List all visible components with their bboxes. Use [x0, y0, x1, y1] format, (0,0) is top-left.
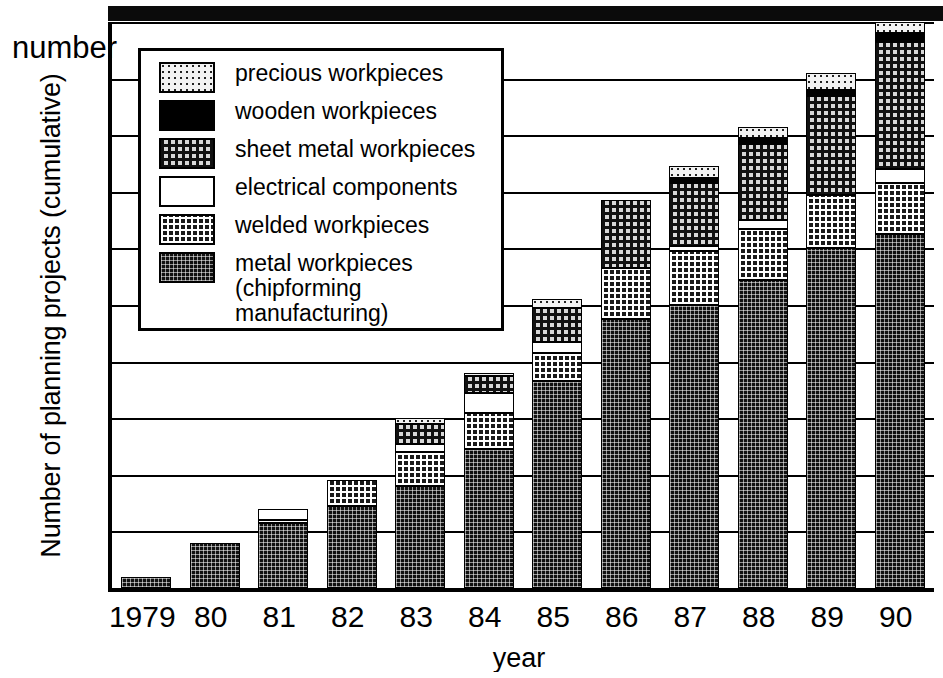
bar-segment-electrical [738, 220, 788, 228]
bar-segment-precious [669, 166, 719, 177]
scan-artifact-strip [108, 6, 943, 21]
bar-segment-welded [327, 480, 377, 505]
bar-segment-metal [190, 543, 240, 588]
legend-swatch-precious [159, 62, 215, 93]
bar-86 [601, 22, 651, 588]
bar-segment-wooden [806, 90, 856, 96]
bar-segment-welded [738, 229, 788, 280]
x-axis-ticks: 19798081828384858687888990 [108, 600, 930, 640]
legend-item-label: precious workpieces [235, 61, 443, 86]
bar-segment-sheet [464, 376, 514, 393]
bar-87 [669, 22, 719, 588]
bar-segment-precious [532, 299, 582, 307]
legend-item-label: wooden workpieces [235, 99, 437, 124]
bar-segment-welded [395, 452, 445, 486]
bar-segment-sheet [875, 42, 925, 169]
bar-segment-precious [464, 373, 514, 376]
bar-segment-welded [258, 520, 308, 523]
bar-segment-sheet [738, 144, 788, 220]
bar-segment-sheet [669, 183, 719, 245]
legend-item-welded: welded workpieces [141, 213, 501, 251]
legend-item-label: sheet metal workpieces [235, 137, 475, 162]
x-axis-title: year [108, 643, 930, 674]
legend-item-label: electrical components [235, 175, 457, 200]
bar-segment-precious [875, 22, 925, 33]
bar-segment-sheet [806, 96, 856, 195]
legend-item-electrical: electrical components [141, 175, 501, 213]
bar-segment-metal [875, 234, 925, 588]
bar-90 [875, 22, 925, 588]
legend-item-precious: precious workpieces [141, 61, 501, 99]
bar-segment-sheet [395, 424, 445, 444]
legend-swatch-sheet-metal [159, 138, 215, 169]
legend-rows: precious workpieceswooden workpiecesshee… [141, 61, 501, 313]
bar-segment-wooden [738, 138, 788, 144]
bar-segment-electrical [669, 246, 719, 252]
bar-segment-precious [806, 73, 856, 90]
bar-segment-metal [395, 486, 445, 588]
bar-segment-welded [601, 268, 651, 319]
bar-segment-metal [327, 506, 377, 588]
bar-segment-metal [532, 381, 582, 588]
legend-item-wooden: wooden workpieces [141, 99, 501, 137]
bar-segment-sheet [532, 308, 582, 342]
bar-segment-precious [395, 418, 445, 424]
bar-segment-electrical [464, 393, 514, 413]
legend-swatch-wooden [159, 100, 215, 131]
legend-item-sheet: sheet metal workpieces [141, 137, 501, 175]
bar-segment-welded [875, 183, 925, 234]
bar-segment-sheet [601, 200, 651, 268]
legend-item-label: welded workpieces [235, 213, 429, 238]
legend-swatch-metal [159, 252, 215, 283]
legend-item-metal: metal workpieces (chipforming manufactur… [141, 251, 501, 313]
legend-item-label: metal workpieces (chipforming manufactur… [235, 251, 501, 326]
x-tick-label-90: 90 [841, 600, 943, 634]
bar-segment-metal [258, 523, 308, 588]
y-axis-title: Number of planning projects (cumulative) [36, 36, 67, 596]
bar-segment-metal [601, 319, 651, 588]
chart-legend: precious workpieceswooden workpiecesshee… [138, 48, 504, 331]
chart-root: number Number of planning projects (cumu… [0, 0, 943, 678]
bar-segment-electrical [258, 509, 308, 520]
legend-swatch-electrical [159, 176, 215, 207]
legend-swatch-welded [159, 214, 215, 245]
bar-segment-metal [669, 305, 719, 588]
bar-segment-welded [532, 353, 582, 381]
bar-segment-metal [806, 248, 856, 588]
bar-segment-electrical [875, 169, 925, 183]
bar-segment-welded [669, 251, 719, 305]
bar-segment-electrical [395, 444, 445, 452]
bar-89 [806, 22, 856, 588]
bar-segment-electrical [532, 342, 582, 353]
bar-segment-wooden [669, 178, 719, 184]
bar-segment-metal [738, 280, 788, 588]
bar-segment-metal [121, 577, 171, 588]
bar-segment-precious [738, 127, 788, 138]
bar-85 [532, 22, 582, 588]
bar-segment-wooden [875, 33, 925, 41]
bar-segment-metal [464, 449, 514, 588]
bar-segment-welded [464, 413, 514, 450]
bar-88 [738, 22, 788, 588]
page-bottom-margin [0, 672, 943, 678]
bar-segment-welded [806, 195, 856, 249]
